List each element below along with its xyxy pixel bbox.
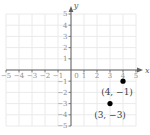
scatter-plot-svg: xy−5−4−3−2−11234554321−1−2−3−4−50(4, −1)… [0,0,150,135]
x-tick-label: 1 [82,72,86,80]
origin-label: 0 [74,72,78,80]
x-tick-label: −2 [40,72,50,80]
data-point-label: (4, −1) [101,87,133,97]
y-tick-label: −3 [57,100,67,108]
y-tick-label: 3 [63,33,67,41]
y-tick-label: −4 [57,111,68,119]
data-point [120,79,125,84]
data-point [107,101,112,106]
y-tick-label: −2 [57,89,67,97]
y-axis-label: y [73,1,79,10]
y-tick-label: 4 [63,22,68,30]
y-tick-label: −1 [57,78,67,86]
y-tick-label: 1 [63,55,67,63]
y-tick-label: 5 [63,10,67,18]
x-tick-label: 2 [95,72,99,80]
y-tick-label: 2 [63,44,67,52]
x-tick-label: −3 [27,72,37,80]
x-axis-label: x [145,66,150,75]
coordinate-plane: xy−5−4−3−2−11234554321−1−2−3−4−50(4, −1)… [0,0,150,135]
x-tick-label: −4 [14,72,25,80]
x-tick-label: 5 [134,72,138,80]
y-tick-label: −5 [57,122,67,130]
x-tick-label: −5 [1,72,11,80]
data-point-label: (3, −3) [94,110,126,120]
x-tick-label: 3 [108,72,112,80]
